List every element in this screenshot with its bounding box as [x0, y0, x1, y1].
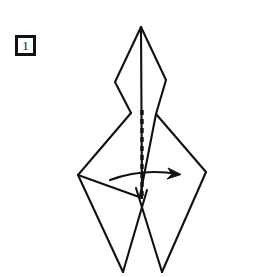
- step-number-label: 1: [19, 38, 32, 53]
- origami-diagram: [0, 0, 255, 277]
- step-number-badge: 1: [15, 35, 36, 56]
- diagram-background: [0, 0, 255, 277]
- origami-figure: 1: [0, 0, 255, 277]
